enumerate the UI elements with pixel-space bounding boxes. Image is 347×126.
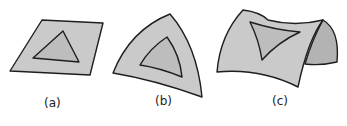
label-b: (b) (155, 94, 172, 108)
label-a: (a) (44, 96, 61, 110)
panel-c-saddle (217, 10, 337, 87)
panel-a-plane (10, 20, 103, 75)
label-c: (c) (272, 94, 288, 108)
panel-b-sphere (113, 14, 202, 97)
